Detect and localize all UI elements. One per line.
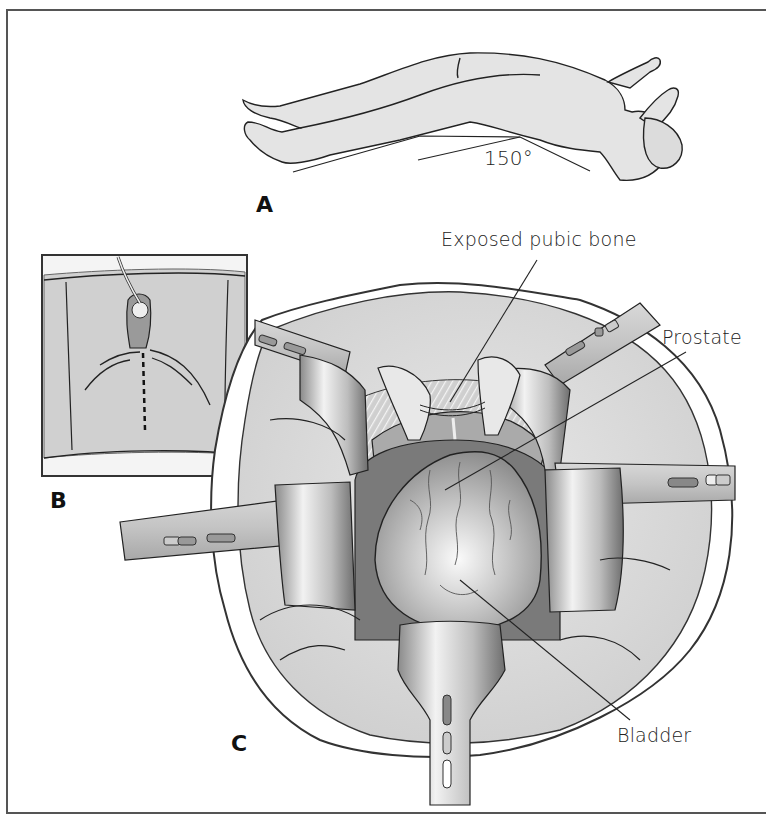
panel-label-c: C [231, 731, 247, 756]
annotation-bladder: Bladder [617, 724, 691, 746]
annotation-exposed-pubic-bone: Exposed pubic bone [441, 228, 637, 250]
panel-label-a: A [256, 192, 273, 217]
angle-label: 150° [484, 146, 533, 170]
annotation-prostate: Prostate [662, 326, 742, 348]
panel-label-b: B [50, 488, 67, 513]
patient-figure [243, 53, 682, 180]
